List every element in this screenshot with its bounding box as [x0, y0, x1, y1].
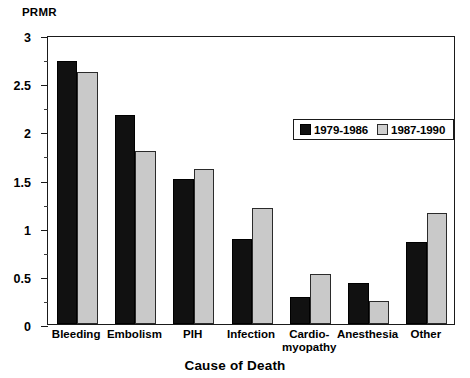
y-tick-major-2: 1: [41, 230, 48, 231]
x-tick-label-5-line-0: Anesthesia: [337, 328, 398, 340]
gray-square-swatch: [377, 124, 388, 135]
bar-0-0: [57, 61, 78, 324]
bars-layer: [48, 37, 454, 324]
x-tick-label-5: Anesthesia: [337, 328, 398, 341]
x-axis-tick-labels: BleedingEmbolismPIHInfectionCardio-myopa…: [47, 328, 455, 362]
y-tick-label-4: 2: [24, 127, 31, 141]
bar-1-5: [369, 301, 390, 324]
y-axis-unit-label: PRMR: [22, 6, 57, 18]
x-tick-label-2: PIH: [183, 328, 202, 341]
x-tick-label-3: Infection: [227, 328, 275, 341]
y-tick-major-5: 2.5: [41, 85, 48, 86]
x-tick-label-6: Other: [411, 328, 442, 341]
legend-label-0: 1979-1986: [314, 124, 368, 136]
x-tick-label-4-line-0: Cardio-: [289, 328, 329, 340]
y-tick-label-5: 2.5: [14, 79, 31, 93]
bar-chart: PRMR 00.511.522.53 1979-1986 1987-1990 B…: [0, 0, 470, 378]
bar-1-0: [77, 72, 98, 324]
y-tick-minor-0: [44, 302, 48, 303]
bar-0-1: [115, 115, 136, 324]
y-tick-major-4: 2: [41, 133, 48, 134]
y-tick-label-3: 1.5: [14, 176, 31, 190]
y-tick-label-2: 1: [24, 224, 31, 238]
y-tick-major-6: 3: [41, 37, 48, 38]
bar-1-6: [427, 213, 448, 324]
black-square-swatch: [300, 124, 311, 135]
x-tick-label-3-line-0: Infection: [227, 328, 275, 340]
bar-1-3: [252, 208, 273, 324]
x-tick-label-2-line-0: PIH: [183, 328, 202, 340]
x-tick-label-1: Embolism: [107, 328, 162, 341]
y-tick-minor-5: [44, 61, 48, 62]
y-tick-major-1: 0.5: [41, 278, 48, 279]
plot-area: 00.511.522.53 1979-1986 1987-1990: [47, 36, 455, 325]
legend: 1979-1986 1987-1990: [293, 119, 454, 140]
y-tick-minor-4: [44, 109, 48, 110]
x-tick-label-4-line-1: myopathy: [282, 341, 336, 354]
y-tick-label-0: 0: [24, 320, 31, 334]
x-tick-label-6-line-0: Other: [411, 328, 442, 340]
x-axis-title: Cause of Death: [0, 358, 470, 373]
y-tick-label-6: 3: [24, 31, 31, 45]
legend-entry-1: 1987-1990: [377, 124, 445, 136]
bar-1-1: [135, 151, 156, 324]
legend-entry-0: 1979-1986: [300, 124, 368, 136]
y-tick-major-0: 0: [41, 326, 48, 327]
bar-0-5: [348, 283, 369, 324]
bar-1-4: [310, 274, 331, 324]
bar-0-3: [232, 239, 253, 324]
y-tick-major-3: 1.5: [41, 182, 48, 183]
y-tick-label-1: 0.5: [14, 272, 31, 286]
bar-1-2: [194, 169, 215, 324]
y-tick-minor-3: [44, 157, 48, 158]
bar-0-2: [173, 179, 194, 324]
x-tick-label-4: Cardio-myopathy: [282, 328, 336, 353]
y-tick-minor-1: [44, 254, 48, 255]
bar-0-4: [290, 297, 311, 324]
bar-0-6: [406, 242, 427, 324]
x-tick-label-0: Bleeding: [52, 328, 101, 341]
legend-label-1: 1987-1990: [391, 124, 445, 136]
x-tick-label-1-line-0: Embolism: [107, 328, 162, 340]
y-tick-minor-2: [44, 206, 48, 207]
x-tick-label-0-line-0: Bleeding: [52, 328, 101, 340]
